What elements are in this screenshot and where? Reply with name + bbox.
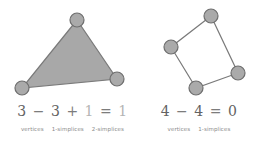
left-eq-equals-operator: =	[97, 103, 115, 119]
left-eq-result: 1	[115, 103, 130, 119]
quadrilateral-diagram	[145, 0, 253, 102]
right-eq-minus-operator: −	[173, 103, 191, 119]
vertex-bottom-left	[15, 81, 29, 95]
left-panel: 3−3+1=1 vertices1-simplices2-simplices	[0, 0, 145, 145]
right-eq-result: 0	[225, 103, 240, 119]
right-panel: 4−4=0 vertices1-simplices	[145, 0, 253, 145]
vertex-bottom-right	[110, 72, 124, 86]
vertex-top	[70, 13, 84, 27]
left-legend-vertices: vertices	[17, 126, 48, 132]
right-eq-edges-count: 4	[191, 103, 206, 119]
right-equation: 4−4=0	[145, 103, 253, 119]
triangle-diagram	[0, 0, 145, 102]
vertex-right	[231, 66, 245, 80]
right-legend: vertices1-simplices	[145, 126, 253, 132]
vertex-bottom	[189, 81, 203, 95]
triangle-face	[22, 20, 117, 88]
right-eq-vertices-count: 4	[158, 103, 173, 119]
left-legend: vertices1-simplices2-simplices	[0, 126, 145, 132]
left-eq-plus-operator: +	[63, 103, 81, 119]
right-eq-equals-operator: =	[207, 103, 225, 119]
left-equation: 3−3+1=1	[0, 103, 145, 119]
left-eq-vertices-count: 3	[14, 103, 29, 119]
quadrilateral-outline	[171, 16, 238, 88]
left-eq-minus-operator: −	[30, 103, 48, 119]
left-eq-edges-count: 3	[48, 103, 63, 119]
euler-characteristic-figure: 3−3+1=1 vertices1-simplices2-simplices 4…	[0, 0, 253, 145]
right-legend-1-simplices: 1-simplices	[194, 126, 234, 132]
vertex-left	[164, 40, 178, 54]
right-legend-vertices: vertices	[164, 126, 195, 132]
left-legend-2-simplices: 2-simplices	[88, 126, 128, 132]
left-legend-1-simplices: 1-simplices	[48, 126, 88, 132]
vertex-top	[204, 9, 218, 23]
left-eq-faces-count: 1	[82, 103, 97, 119]
